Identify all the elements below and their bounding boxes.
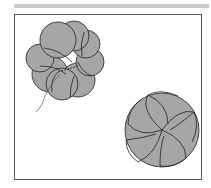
rosette-finished — [125, 92, 199, 167]
rosette-in-progress — [26, 21, 104, 112]
rosette-illustration — [0, 0, 211, 188]
